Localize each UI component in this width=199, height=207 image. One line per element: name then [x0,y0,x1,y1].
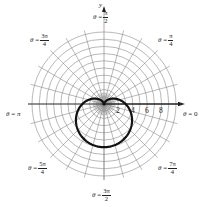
theta-symbol: θ [6,111,9,118]
equals-sign: = [11,111,15,118]
denominator: 4 [43,41,46,48]
polar-axis-arrow-icon [178,102,185,106]
angle-label-pi: θ = π [6,111,20,118]
theta-symbol: θ [30,37,33,44]
fraction: π2 [103,10,108,25]
angle-label-5pi-over-4: θ = 5π4 [28,161,47,176]
fraction: π4 [168,33,173,48]
tick-label-4: 4 [131,107,135,115]
theta-symbol: θ [28,165,31,172]
equals-sign: = [35,37,39,44]
fraction: 7π4 [168,161,177,176]
angle-label-3pi-over-4: θ = 3π4 [30,33,49,48]
equals-sign: = [188,111,192,118]
grid-radial-lines [28,31,177,180]
theta-symbol: θ [92,192,95,199]
equals-sign: = [97,192,101,199]
denominator: 4 [41,169,44,176]
theta-symbol: θ [158,37,161,44]
theta-symbol: θ [183,111,186,118]
angle-value: 0 [194,111,198,118]
equals-sign: = [33,165,37,172]
y-axis-label: y [99,2,102,9]
angle-label-3pi-over-2: θ = 3π2 [92,188,111,203]
tick-label-8: 8 [159,107,163,115]
denominator: 4 [171,169,174,176]
angle-value: π [17,111,21,118]
fraction: 3π2 [102,188,111,203]
tick-label-6: 6 [145,107,149,115]
angle-label-7pi-over-4: θ = 7π4 [158,161,177,176]
equals-sign: = [98,14,102,21]
fraction: 5π4 [38,161,47,176]
equals-sign: = [163,37,167,44]
denominator: 2 [105,196,108,203]
equals-sign: = [163,165,167,172]
theta-symbol: θ [158,165,161,172]
denominator: 4 [169,41,172,48]
angle-label-pi-over-2: θ = π2 [93,10,108,25]
angle-label-pi-over-4: θ = π4 [158,33,173,48]
theta-symbol: θ [93,14,96,21]
fraction: 3π4 [40,33,49,48]
denominator: 2 [104,18,107,25]
tick-label-2: 2 [116,107,120,115]
angle-label-0: θ = 0 [183,111,197,118]
